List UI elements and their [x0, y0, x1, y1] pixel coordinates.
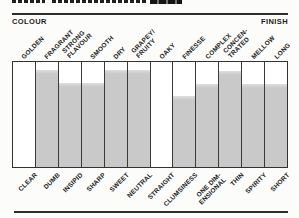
profile-columns-grid: [12, 61, 288, 168]
column-cell: [264, 62, 287, 167]
column-top-label: FINESSE: [181, 34, 207, 60]
column-fill: [82, 83, 104, 167]
tasting-profile-chart: COLOUR FINISH GOLDENCLEARFRAGRANTDUMBSTR…: [0, 0, 299, 218]
column-fill: [196, 84, 218, 167]
cropped-heading-text: [150, 0, 182, 4]
column-top-label: GRAPEY/ FRUITY: [129, 28, 161, 60]
column-top-label: OAKY: [158, 41, 177, 60]
column-cell: [58, 62, 81, 167]
column-cell: [195, 62, 218, 167]
column-fill: [105, 70, 127, 167]
column-bottom-label: SHORT: [269, 171, 291, 193]
column-fill: [242, 84, 264, 167]
column-top-label: LONG: [273, 41, 292, 60]
column-bottom-label: SHARP: [85, 171, 107, 193]
column-cell: [241, 62, 264, 167]
column-top-label: CONCEN- TRATED: [221, 27, 254, 60]
column-top-label: STRONG FLAVOUR: [60, 27, 93, 60]
column-top-label: GOLDEN: [20, 34, 46, 60]
column-bottom-label: DUMB: [42, 171, 62, 191]
column-bottom-label: SWEET: [108, 171, 130, 193]
finish-header-label: FINISH: [261, 17, 288, 26]
column-cell: [218, 62, 241, 167]
column-bottom-label: STRAIGHT: [146, 171, 176, 201]
column-cell: [172, 62, 195, 167]
column-fill: [219, 71, 241, 167]
column-bottom-label: SPIRITY: [244, 171, 268, 195]
column-cell: [150, 62, 173, 167]
column-bottom-label: ONE DIM- ENSIONAL: [192, 171, 227, 206]
column-top-label: DRY: [112, 45, 127, 60]
column-bottom-label: NEUTRAL: [125, 171, 153, 199]
column-fill: [59, 83, 81, 167]
cropped-heading-text: [52, 0, 148, 3]
column-bottom-label: THIN: [229, 171, 246, 188]
column-fill: [173, 96, 195, 167]
footer-divider-line: [14, 211, 288, 213]
column-fill: [265, 84, 287, 167]
column-bottom-label: CLEAR: [16, 171, 38, 193]
column-cell: [127, 62, 150, 167]
column-bottom-label: CLUMSINESS: [162, 171, 199, 208]
header-divider-line: [12, 13, 288, 15]
column-cell: [81, 62, 104, 167]
column-top-label: FRAGRANT: [43, 28, 75, 60]
colour-header-label: COLOUR: [12, 17, 47, 26]
column-cell: [13, 62, 35, 167]
column-top-label: SMOOTH: [89, 34, 115, 60]
column-fill: [128, 70, 150, 167]
column-top-label: COMPLEX: [204, 31, 233, 60]
column-cell: [35, 62, 58, 167]
column-fill: [36, 70, 58, 167]
column-bottom-label: INSIPID: [61, 171, 84, 194]
column-cell: [104, 62, 127, 167]
column-top-label: MELLOW: [250, 33, 277, 60]
cropped-heading-text: [12, 0, 45, 3]
